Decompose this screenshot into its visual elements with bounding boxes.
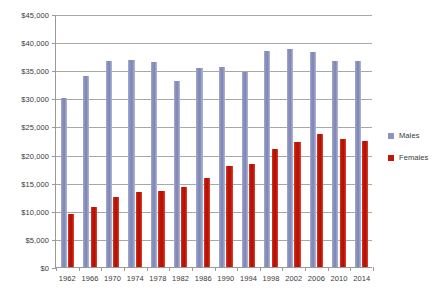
legend-swatch-icon xyxy=(388,133,394,139)
bar-group xyxy=(124,15,147,267)
x-axis-tick xyxy=(260,267,261,271)
x-axis-tick xyxy=(215,267,216,271)
bar-males xyxy=(106,61,112,267)
bar-females xyxy=(317,134,323,267)
bar-males xyxy=(242,72,248,267)
bar-females xyxy=(181,187,187,267)
bar-males xyxy=(264,51,270,267)
bar-group xyxy=(79,15,102,267)
legend-swatch-icon xyxy=(388,155,394,161)
bar-males xyxy=(83,76,89,267)
x-axis-tick-label: 1990 xyxy=(217,274,234,283)
chart-legend: MalesFemales xyxy=(388,131,428,175)
bar-males xyxy=(287,49,293,267)
bar-females xyxy=(68,214,74,267)
x-axis-tick-label: 1986 xyxy=(195,274,212,283)
x-axis-tick xyxy=(282,267,283,271)
bar-group xyxy=(305,15,328,267)
bar-group xyxy=(282,15,305,267)
bar-females xyxy=(204,178,210,267)
bar-group xyxy=(192,15,215,267)
x-axis-tick xyxy=(56,267,57,271)
x-axis-tick xyxy=(124,267,125,271)
bar-males xyxy=(196,68,202,267)
y-axis-tick-label: $20,000 xyxy=(21,151,49,160)
x-axis-tick xyxy=(192,267,193,271)
x-axis-tick-label: 1966 xyxy=(81,274,98,283)
bar-males xyxy=(219,67,225,267)
x-axis-tick xyxy=(237,267,238,271)
bar-group xyxy=(56,15,79,267)
x-axis-tick-label: 1978 xyxy=(149,274,166,283)
bar-group xyxy=(147,15,170,267)
x-axis-tick-label: 1998 xyxy=(263,274,280,283)
x-axis-tick xyxy=(328,267,329,271)
x-axis-tick-label: 2014 xyxy=(353,274,370,283)
bar-group xyxy=(260,15,283,267)
legend-item-males[interactable]: Males xyxy=(388,131,428,140)
y-axis-tick-label: $0 xyxy=(40,264,49,273)
x-axis-tick xyxy=(79,267,80,271)
legend-label: Females xyxy=(399,153,428,162)
bar-group xyxy=(101,15,124,267)
y-axis-tick-label: $15,000 xyxy=(21,179,49,188)
bar-females xyxy=(362,141,368,267)
y-axis-tick-label: $10,000 xyxy=(21,207,49,216)
x-axis-tick xyxy=(373,267,374,271)
bar-group xyxy=(237,15,260,267)
bar-females xyxy=(91,207,97,267)
bar-group xyxy=(169,15,192,267)
bar-males xyxy=(128,60,134,267)
bar-females xyxy=(340,139,346,267)
x-axis-tick-label: 1982 xyxy=(172,274,189,283)
x-axis-tick-label: 2010 xyxy=(330,274,347,283)
x-axis-tick-label: 1994 xyxy=(240,274,257,283)
bar-males xyxy=(174,81,180,267)
y-axis-tick-label: $40,000 xyxy=(21,39,49,48)
x-axis-tick xyxy=(350,267,351,271)
bar-females xyxy=(226,166,232,267)
x-axis-tick xyxy=(305,267,306,271)
plot-area: 1962196619701974197819821986199019941998… xyxy=(55,15,372,268)
x-axis-tick-label: 2006 xyxy=(308,274,325,283)
y-axis-tick-label: $30,000 xyxy=(21,95,49,104)
x-axis-tick xyxy=(101,267,102,271)
bar-males xyxy=(355,61,361,267)
bar-females xyxy=(272,149,278,267)
bar-females xyxy=(113,197,119,267)
x-axis-tick-label: 1962 xyxy=(59,274,76,283)
bar-females xyxy=(158,191,164,267)
bar-group xyxy=(350,15,373,267)
bar-males xyxy=(61,98,67,267)
legend-item-females[interactable]: Females xyxy=(388,153,428,162)
legend-label: Males xyxy=(399,131,420,140)
x-axis-tick-label: 1970 xyxy=(104,274,121,283)
bar-females xyxy=(136,192,142,267)
x-axis-tick xyxy=(169,267,170,271)
y-axis-tick-label: $25,000 xyxy=(21,123,49,132)
bar-group xyxy=(328,15,351,267)
bar-males xyxy=(332,61,338,267)
bar-males xyxy=(310,52,316,267)
y-axis-tick-label: $45,000 xyxy=(21,11,49,20)
x-axis-tick-label: 2002 xyxy=(285,274,302,283)
y-axis-tick-label: $35,000 xyxy=(21,67,49,76)
bar-females xyxy=(294,142,300,267)
x-axis-tick-label: 1974 xyxy=(127,274,144,283)
bar-males xyxy=(151,62,157,267)
bar-chart: $0$5,000$10,000$15,000$20,000$25,000$30,… xyxy=(0,0,443,294)
bar-females xyxy=(249,164,255,267)
bar-group xyxy=(215,15,238,267)
y-axis-tick-label: $5,000 xyxy=(25,235,49,244)
x-axis-tick xyxy=(147,267,148,271)
